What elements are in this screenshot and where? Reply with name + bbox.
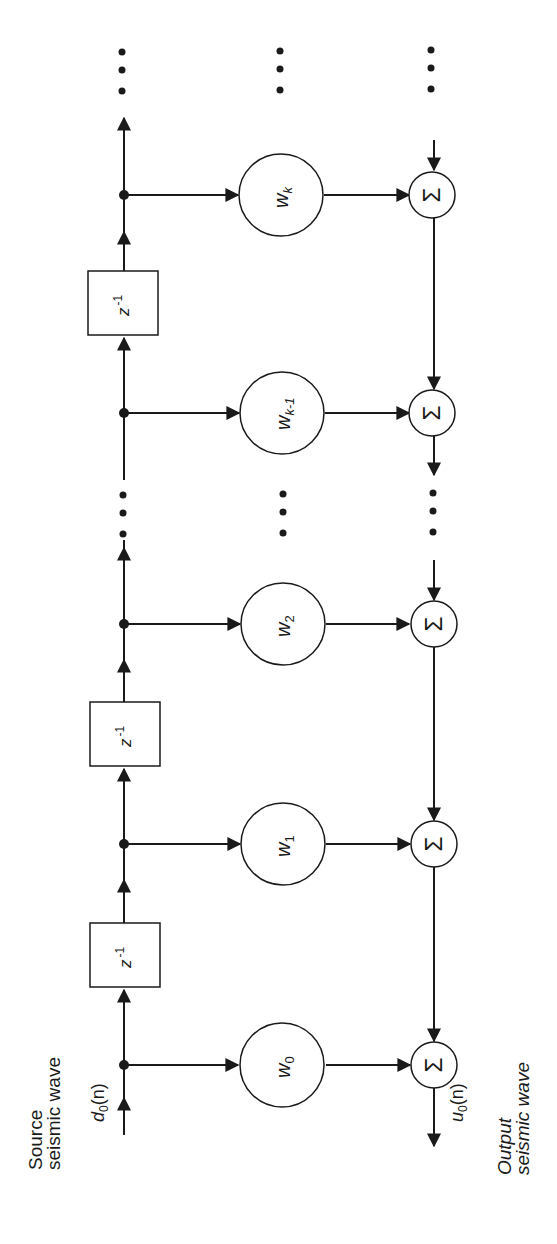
svg-text:Σ: Σ [420, 617, 447, 632]
junction-dot [119, 1060, 129, 1070]
fir-filter-diagram: Σ Σ Σ Σ Σ w0 w1 w2 wk-1 wk z-1 z-1 z-1 d… [0, 0, 557, 1244]
svg-text:Σ: Σ [420, 837, 447, 852]
svg-text:Σ: Σ [420, 1058, 447, 1073]
junction-dot [119, 839, 129, 849]
junction-dot [119, 619, 129, 629]
ellipsis-dots [119, 47, 437, 538]
source-caption-line2: seismic wave [43, 1057, 64, 1170]
svg-text:Σ: Σ [418, 188, 445, 203]
weight-labels: w0 w1 w2 wk-1 wk [270, 186, 297, 1078]
output-signal-label: u0(n) [447, 1083, 470, 1122]
junction-dot [119, 190, 129, 200]
svg-text:Σ: Σ [418, 406, 445, 421]
input-signal-label: d0(n) [88, 1083, 111, 1122]
output-caption-line2: seismic wave [512, 1062, 533, 1175]
sum-symbols: Σ Σ Σ Σ Σ [418, 188, 447, 1073]
junction-dot [119, 408, 129, 418]
